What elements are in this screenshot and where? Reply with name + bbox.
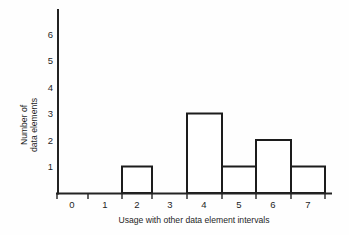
y-axis-title-line-1: Number of [19, 104, 29, 145]
y-tick-label-2: 2 [48, 135, 53, 146]
y-tick-label-1: 1 [48, 161, 53, 172]
chart-canvas: 0 1 2 3 4 5 6 7 1 2 3 4 5 6 Usage with o… [0, 0, 349, 235]
bar-category-6 [256, 140, 291, 193]
x-axis-tick-labels: 0 1 2 3 4 5 6 7 [69, 199, 310, 210]
x-tick-label-3: 3 [167, 199, 172, 210]
y-axis-tick-labels: 1 2 3 4 5 6 [48, 29, 53, 173]
x-tick-label-6: 6 [270, 199, 275, 210]
bar-category-2 [122, 167, 152, 194]
x-tick-label-0: 0 [69, 199, 74, 210]
x-tick-label-5: 5 [236, 199, 241, 210]
y-tick-label-6: 6 [48, 29, 53, 40]
histogram-chart: 0 1 2 3 4 5 6 7 1 2 3 4 5 6 Usage with o… [0, 0, 349, 235]
y-tick-label-3: 3 [48, 108, 53, 119]
y-axis-title-line-2: data elements [29, 98, 39, 152]
x-tick-label-2: 2 [134, 199, 139, 210]
bar-category-7 [291, 167, 325, 194]
y-tick-label-5: 5 [48, 55, 53, 66]
bar-category-4 [187, 114, 222, 194]
x-tick-label-4: 4 [201, 199, 206, 210]
bar-category-5 [222, 167, 256, 194]
x-tick-label-1: 1 [102, 199, 107, 210]
y-tick-label-4: 4 [48, 82, 53, 93]
bar-series [122, 114, 325, 194]
y-axis-title: Number of data elements [19, 98, 39, 152]
x-tick-label-7: 7 [305, 199, 310, 210]
x-axis-title: Usage with other data element intervals [119, 215, 270, 225]
